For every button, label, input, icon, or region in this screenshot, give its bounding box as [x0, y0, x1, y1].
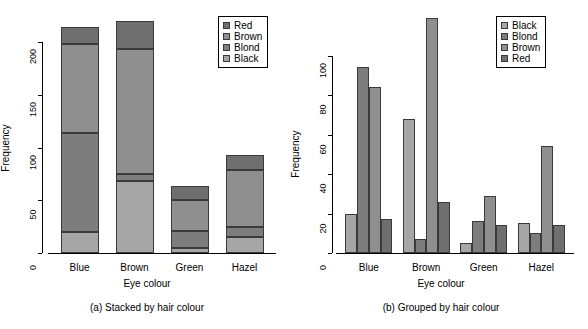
grouped-bar — [381, 219, 393, 253]
y-tick-label-panel-b-100: 100 — [319, 55, 328, 85]
y-tick-label-panel-b-60: 60 — [319, 134, 328, 164]
legend-item: Black — [223, 53, 262, 64]
legend-item: Brown — [501, 42, 540, 53]
grouped-bar — [541, 146, 553, 253]
stacked-bar-segment — [116, 181, 154, 253]
y-axis-line-b — [332, 56, 333, 254]
legend-item: Blond — [223, 42, 262, 53]
legend-a: RedBrownBlondBlack — [218, 16, 268, 68]
y-tick-panel-a-50 — [38, 200, 42, 201]
grouped-bar — [415, 239, 427, 253]
legend-label: Blond — [234, 43, 260, 53]
stacked-bar-segment — [116, 49, 154, 174]
y-tick-label-panel-a-50: 50 — [29, 200, 38, 230]
grouped-bar — [518, 223, 530, 253]
legend-item: Black — [501, 20, 540, 31]
legend-item: Blond — [501, 31, 540, 42]
x-tick-label-panel-b-hazel: Hazel — [501, 263, 581, 273]
grouped-bar — [426, 18, 438, 253]
y-tick-label-panel-a-200: 200 — [29, 42, 38, 72]
y-tick-label-panel-a-150: 150 — [29, 95, 38, 125]
legend-label: Red — [234, 21, 252, 31]
legend-label: Blond — [512, 32, 538, 42]
legend-swatch-icon — [223, 33, 230, 40]
grouped-bar — [460, 243, 472, 253]
y-tick-label-panel-a-100: 100 — [29, 147, 38, 177]
grouped-bar — [357, 67, 369, 253]
stacked-bar-segment — [226, 155, 264, 170]
stacked-bar-segment — [171, 248, 209, 253]
legend-swatch-icon — [223, 22, 230, 29]
stacked-bar-segment — [61, 133, 99, 232]
stacked-bar-segment — [171, 200, 209, 231]
grouped-bar — [369, 87, 381, 253]
legend-swatch-icon — [501, 44, 508, 51]
y-tick-label-panel-b-40: 40 — [319, 174, 328, 204]
y-tick-label-panel-b-80: 80 — [319, 95, 328, 125]
grouped-bar — [345, 214, 357, 254]
y-tick-panel-a-200 — [38, 42, 42, 43]
y-axis-line-a — [42, 42, 43, 253]
legend-swatch-icon — [501, 22, 508, 29]
stacked-bar-segment — [171, 231, 209, 248]
y-tick-panel-b-60 — [328, 135, 332, 136]
legend-label: Brown — [512, 43, 540, 53]
legend-swatch-icon — [501, 55, 508, 62]
y-tick-label-panel-b-0: 0 — [319, 253, 328, 283]
x-axis-line-a — [48, 253, 276, 254]
legend-label: Black — [512, 21, 536, 31]
legend-swatch-icon — [223, 44, 230, 51]
stacked-bar-segment — [171, 186, 209, 201]
y-tick-label-panel-b-20: 20 — [319, 213, 328, 243]
grouped-bar — [496, 225, 508, 253]
grouped-bar — [438, 202, 450, 253]
stacked-bar-segment — [226, 227, 264, 238]
y-tick-label-panel-a-0: 0 — [29, 253, 38, 283]
y-tick-panel-b-100 — [328, 56, 332, 57]
y-tick-panel-b-40 — [328, 174, 332, 175]
stacked-bar-segment — [226, 237, 264, 253]
legend-item: Brown — [223, 31, 262, 42]
x-tick-label-panel-a-hazel: Hazel — [205, 263, 285, 273]
legend-item: Red — [223, 20, 262, 31]
stacked-bar-segment — [226, 170, 264, 227]
y-tick-panel-a-0 — [38, 253, 42, 254]
stacked-bar-segment — [61, 232, 99, 253]
legend-item: Red — [501, 53, 540, 64]
stacked-bar-segment — [116, 174, 154, 181]
x-axis-label-b: Eye colour — [294, 279, 588, 289]
figure-root: Frequency Eye colour (a) Stacked by hair… — [0, 0, 588, 329]
y-tick-panel-a-150 — [38, 95, 42, 96]
y-axis-label-a: Frequency — [1, 108, 11, 188]
x-axis-label-a: Eye colour — [0, 279, 294, 289]
stacked-bar-segment — [61, 44, 99, 132]
y-tick-panel-b-20 — [328, 214, 332, 215]
stacked-bar-segment — [61, 27, 99, 45]
grouped-bar — [553, 225, 565, 253]
legend-label: Red — [512, 54, 530, 64]
grouped-bar — [530, 233, 542, 253]
y-tick-panel-b-0 — [328, 253, 332, 254]
y-tick-panel-b-80 — [328, 95, 332, 96]
panel-caption-b: (b) Grouped by hair colour — [294, 303, 588, 313]
legend-label: Brown — [234, 32, 262, 42]
y-tick-panel-a-100 — [38, 148, 42, 149]
y-axis-label-b: Frequency — [291, 114, 301, 194]
legend-swatch-icon — [501, 33, 508, 40]
legend-label: Black — [234, 54, 258, 64]
legend-b: BlackBlondBrownRed — [496, 16, 546, 68]
panel-stacked: Frequency Eye colour (a) Stacked by hair… — [0, 0, 294, 329]
x-axis-line-b — [336, 253, 574, 254]
stacked-bar-segment — [116, 21, 154, 48]
grouped-bar — [484, 196, 496, 253]
panel-grouped: Frequency Eye colour (b) Grouped by hair… — [294, 0, 588, 329]
panel-caption-a: (a) Stacked by hair colour — [0, 303, 294, 313]
grouped-bar — [403, 119, 415, 253]
grouped-bar — [472, 221, 484, 253]
legend-swatch-icon — [223, 55, 230, 62]
